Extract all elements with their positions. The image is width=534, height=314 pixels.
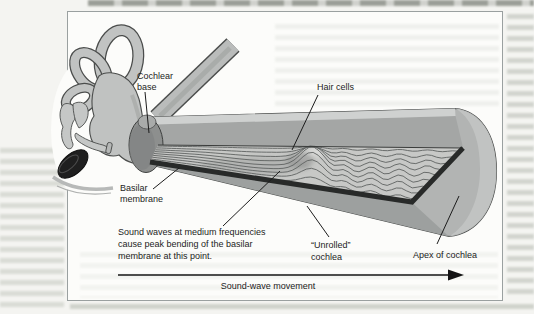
right-arrowhead-icon	[448, 270, 464, 281]
label-medium-frequency-note: Sound waves at medium frequencies cause …	[118, 226, 282, 262]
label-cochlear-base: Cochlear base	[137, 71, 187, 92]
cochlea-diagram	[0, 0, 534, 314]
sound-wave-arrow	[118, 270, 464, 281]
label-apex-of-cochlea: Apex of cochlea	[413, 250, 503, 261]
label-unrolled-cochlea: “Unrolled” cochlea	[311, 239, 365, 263]
scanned-textbook-figure: Cochlear base Hair cells Basilar membran…	[0, 0, 534, 314]
leader-unrolled-cochlea	[307, 206, 329, 237]
label-sound-wave-movement: Sound-wave movement	[115, 281, 421, 292]
label-basilar-membrane: Basilar membrane	[120, 183, 172, 205]
label-hair-cells: Hair cells	[317, 82, 387, 93]
